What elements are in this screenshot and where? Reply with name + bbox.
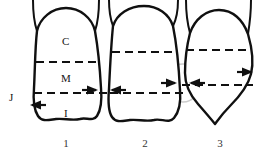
tooth-3-group (182, 0, 253, 124)
zone-label-junction: J (9, 92, 13, 103)
tooth-1-root-left-line (33, 0, 37, 31)
tooth-number-3: 3 (210, 138, 230, 149)
tooth-2-group (108, 0, 184, 121)
tooth-2-root-right-line (173, 0, 178, 26)
zone-label-cervical: C (62, 36, 69, 47)
zone-label-middle: M (61, 73, 71, 84)
tooth-3-root-right-line (248, 0, 251, 34)
tooth-number-2: 2 (135, 138, 155, 149)
tooth-number-1: 1 (56, 138, 76, 149)
zone-label-incisal: I (64, 108, 68, 119)
tooth-3-root-left-line (186, 0, 190, 33)
tooth-1-root-right-line (95, 0, 99, 31)
tooth-2-crown-outline (108, 6, 180, 121)
tooth-1-crown-outline (34, 8, 102, 120)
tooth-anatomy-diagram: C M I J 1 2 3 (0, 0, 265, 158)
tooth-3-crown-outline (185, 10, 252, 124)
tooth-1-group (33, 0, 108, 120)
tooth-2-root-left-line (109, 0, 113, 26)
tooth-diagram-canvas (0, 0, 265, 158)
